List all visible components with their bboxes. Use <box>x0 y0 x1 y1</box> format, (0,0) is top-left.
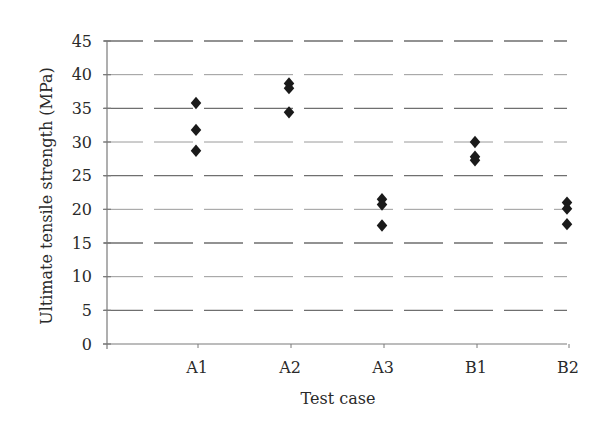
x-tick-label-b1: B1 <box>465 358 487 377</box>
gridlines <box>104 41 567 310</box>
y-tick-label: 45 <box>72 32 92 51</box>
y-tick-label: 25 <box>72 166 92 185</box>
y-tick-label: 10 <box>72 267 92 286</box>
x-axis-ticks: A1A2A3B1B2 <box>185 344 579 377</box>
x-tick-label-a2: A2 <box>278 358 301 377</box>
diamond-marker-a1 <box>191 97 202 109</box>
axes <box>103 41 567 349</box>
y-tick-label: 35 <box>72 99 92 118</box>
y-tick-label: 0 <box>82 335 92 354</box>
x-tick-label-b2: B2 <box>557 358 579 377</box>
x-tick-label-a3: A3 <box>371 358 394 377</box>
diamond-marker-b1 <box>470 136 481 148</box>
y-axis-ticks: 051015202530354045 <box>72 32 111 354</box>
diamond-marker-a1 <box>191 124 202 136</box>
x-tick-label-a1: A1 <box>185 358 208 377</box>
data-points <box>191 77 573 231</box>
scatter-chart: 051015202530354045 A1A2A3B1B2 Ultimate t… <box>0 0 611 426</box>
diamond-marker-a1 <box>191 145 202 157</box>
y-axis-title: Ultimate tensile strength (MPa) <box>37 67 56 325</box>
y-tick-label: 20 <box>72 200 92 219</box>
y-tick-label: 5 <box>82 301 92 320</box>
diamond-marker-b2 <box>562 218 573 230</box>
diamond-marker-a3 <box>377 219 388 231</box>
x-axis-title: Test case <box>301 389 376 408</box>
y-tick-label: 40 <box>72 65 92 84</box>
y-tick-label: 30 <box>72 133 92 152</box>
y-tick-label: 15 <box>72 234 92 253</box>
